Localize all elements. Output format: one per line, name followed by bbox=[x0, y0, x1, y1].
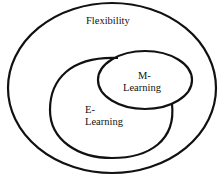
m-learning-label-line1: M- bbox=[138, 70, 151, 81]
m-learning-label-line2: Learning bbox=[123, 82, 161, 93]
flexibility-ellipse bbox=[8, 3, 216, 173]
flexibility-label: Flexibility bbox=[86, 15, 130, 26]
e-learning-label-line2: Learning bbox=[85, 116, 123, 127]
venn-diagram bbox=[0, 0, 224, 179]
e-learning-label-line1: E- bbox=[85, 104, 95, 115]
